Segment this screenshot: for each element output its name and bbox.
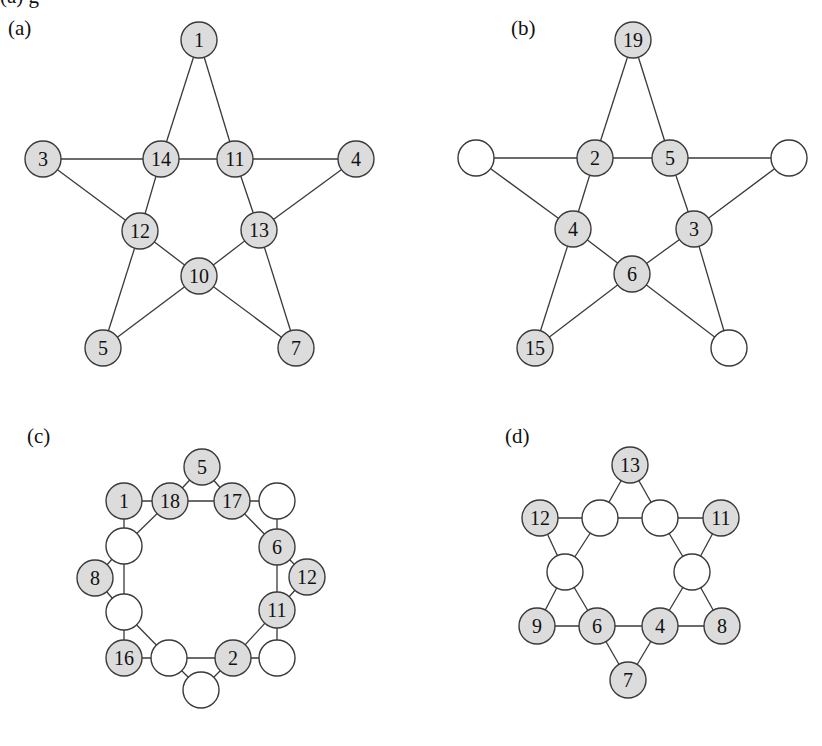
graph-node-filled: 5: [85, 330, 121, 366]
graph-node-filled: 7: [610, 662, 646, 698]
graph-node-filled: 9: [519, 608, 555, 644]
node-label: 1: [119, 490, 129, 512]
node-circle: [547, 554, 583, 590]
nodes: 192543615: [458, 22, 807, 366]
graph-node-empty: [259, 640, 295, 676]
graph-node-filled: 4: [642, 608, 678, 644]
node-circle: [259, 483, 295, 519]
edges: [476, 40, 789, 348]
graph-node-filled: 12: [522, 500, 558, 536]
graph-node-filled: 17: [214, 483, 250, 519]
graph-node-filled: 1: [106, 483, 142, 519]
node-label: 10: [189, 265, 209, 287]
panel-a: 131411412131057: [25, 22, 374, 366]
node-label: 11: [267, 599, 286, 621]
graph-node-filled: 6: [614, 256, 650, 292]
node-label: 2: [228, 647, 238, 669]
graph-node-filled: 1: [181, 22, 217, 58]
node-circle: [183, 672, 219, 708]
node-label: 4: [351, 148, 361, 170]
node-label: 7: [291, 337, 301, 359]
graph-node-empty: [771, 140, 807, 176]
node-circle: [771, 140, 807, 176]
graph-node-filled: 6: [579, 608, 615, 644]
panel-d: 13121196487: [519, 447, 740, 698]
nodes: 511817681211162: [77, 449, 325, 708]
node-circle: [458, 140, 494, 176]
node-label: 5: [98, 337, 108, 359]
graph-node-filled: 13: [241, 212, 277, 248]
graph-node-filled: 12: [122, 213, 158, 249]
node-circle: [674, 554, 710, 590]
node-label: 15: [525, 337, 545, 359]
panel-c: 511817681211162: [77, 449, 325, 708]
graph-node-empty: [183, 672, 219, 708]
node-label: 18: [160, 490, 180, 512]
node-label: 14: [151, 148, 171, 170]
node-label: 2: [590, 147, 600, 169]
graph-node-filled: 8: [704, 608, 740, 644]
node-label: 13: [249, 219, 269, 241]
node-label: 12: [297, 566, 317, 588]
panel-label-c: (c): [27, 426, 50, 447]
panel-label-d: (d): [505, 426, 530, 447]
node-label: 3: [689, 218, 699, 240]
figure-canvas: 1314114121310571925436155118176812111621…: [0, 0, 822, 746]
graph-node-filled: 10: [181, 258, 217, 294]
graph-node-empty: [259, 483, 295, 519]
nodes: 131411412131057: [25, 22, 374, 366]
graph-node-filled: 11: [259, 592, 295, 628]
node-label: 6: [627, 263, 637, 285]
graph-node-filled: 11: [217, 141, 253, 177]
graph-node-empty: [106, 528, 142, 564]
graph-node-empty: [642, 500, 678, 536]
node-label: 8: [90, 567, 100, 589]
node-label: 9: [532, 615, 542, 637]
graph-node-filled: 7: [278, 330, 314, 366]
edge: [535, 229, 573, 348]
panel-label-b: (b): [511, 18, 536, 39]
node-label: 17: [222, 490, 242, 512]
node-label: 11: [711, 507, 730, 529]
graph-node-filled: 3: [676, 211, 712, 247]
node-label: 6: [592, 615, 602, 637]
node-label: 16: [114, 647, 134, 669]
graph-node-empty: [711, 330, 747, 366]
node-label: 12: [530, 507, 550, 529]
graph-node-filled: 16: [106, 640, 142, 676]
node-label: 1: [194, 29, 204, 51]
node-label: 11: [225, 148, 244, 170]
edges: [43, 40, 356, 348]
graph-node-empty: [547, 554, 583, 590]
graph-node-filled: 4: [555, 211, 591, 247]
graph-node-filled: 5: [184, 449, 220, 485]
edge: [161, 40, 199, 159]
node-label: 7: [623, 669, 633, 691]
graph-node-empty: [151, 640, 187, 676]
node-circle: [106, 594, 142, 630]
graph-node-empty: [674, 554, 710, 590]
node-circle: [642, 500, 678, 536]
node-circle: [582, 500, 618, 536]
node-label: 19: [623, 29, 643, 51]
node-label: 4: [655, 615, 665, 637]
graph-node-empty: [582, 500, 618, 536]
node-label: 8: [717, 615, 727, 637]
nodes: 13121196487: [519, 447, 740, 698]
graph-node-filled: 19: [615, 22, 651, 58]
node-label: 5: [665, 147, 675, 169]
node-label: 6: [272, 536, 282, 558]
node-label: 5: [197, 456, 207, 478]
graph-node-filled: 2: [577, 140, 613, 176]
graph-node-filled: 11: [703, 500, 739, 536]
graph-node-filled: 2: [215, 640, 251, 676]
node-label: 4: [568, 218, 578, 240]
graph-node-filled: 4: [338, 141, 374, 177]
node-circle: [711, 330, 747, 366]
node-label: 13: [620, 454, 640, 476]
node-label: 12: [130, 220, 150, 242]
graph-node-filled: 8: [77, 560, 113, 596]
graph-node-empty: [106, 594, 142, 630]
graph-node-filled: 13: [612, 447, 648, 483]
graph-node-empty: [458, 140, 494, 176]
